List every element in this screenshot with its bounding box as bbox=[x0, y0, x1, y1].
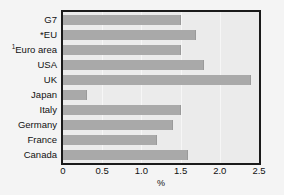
category-label-canada: Canada bbox=[0, 150, 57, 160]
x-tick-label: 0.5 bbox=[96, 165, 109, 176]
bar-row bbox=[63, 27, 259, 42]
category-label-usa: USA bbox=[0, 60, 57, 70]
category-label-euro-area: 1Euro area bbox=[0, 45, 57, 55]
category-label-germany: Germany bbox=[0, 120, 57, 130]
category-axis: G7*EU1Euro areaUSAUKJapanItalyGermanyFra… bbox=[0, 10, 59, 165]
category-label-uk: UK bbox=[0, 75, 57, 85]
bar-row bbox=[63, 148, 259, 163]
bar-uk[interactable] bbox=[63, 75, 251, 85]
x-tick-label: 0 bbox=[60, 165, 65, 176]
bar-g7[interactable] bbox=[63, 15, 181, 25]
bar-row bbox=[63, 88, 259, 103]
bar-row bbox=[63, 12, 259, 27]
bar-row bbox=[63, 133, 259, 148]
bar-row bbox=[63, 57, 259, 72]
category-label-japan: Japan bbox=[0, 90, 57, 100]
bar-japan[interactable] bbox=[63, 90, 87, 100]
category-label-france: France bbox=[0, 135, 57, 145]
x-axis: 00.51.01.52.02.5 bbox=[61, 165, 261, 179]
bar-usa[interactable] bbox=[63, 60, 204, 70]
chart-figure: G7*EU1Euro areaUSAUKJapanItalyGermanyFra… bbox=[0, 0, 284, 195]
bars-container bbox=[63, 12, 259, 163]
bar-eu[interactable] bbox=[63, 30, 196, 40]
bar-row bbox=[63, 118, 259, 133]
bar-euro-area[interactable] bbox=[63, 45, 181, 55]
x-tick-label: 1.0 bbox=[135, 165, 148, 176]
bar-row bbox=[63, 42, 259, 57]
bar-germany[interactable] bbox=[63, 120, 173, 130]
bar-row bbox=[63, 103, 259, 118]
x-axis-title: % bbox=[61, 178, 261, 188]
bar-row bbox=[63, 72, 259, 87]
bar-france[interactable] bbox=[63, 135, 157, 145]
category-label-g7: G7 bbox=[0, 15, 57, 25]
category-label-eu: *EU bbox=[0, 30, 57, 40]
category-label-italy: Italy bbox=[0, 105, 57, 115]
bar-italy[interactable] bbox=[63, 105, 181, 115]
x-tick-label: 1.5 bbox=[174, 165, 187, 176]
plot-area bbox=[61, 10, 261, 165]
x-tick-label: 2.0 bbox=[213, 165, 226, 176]
bar-canada[interactable] bbox=[63, 150, 188, 160]
label-superscript: 1 bbox=[12, 43, 16, 50]
x-tick-label: 2.5 bbox=[252, 165, 265, 176]
